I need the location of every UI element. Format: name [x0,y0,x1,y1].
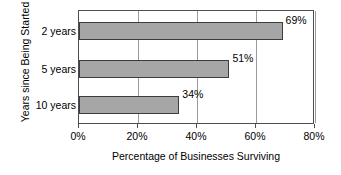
x-axis-tick-mark [137,124,138,128]
x-axis-tick-mark [314,124,315,128]
x-axis-tick-label: 0% [58,130,98,142]
bar-chart: Years since Being Started 2 years 5 year… [0,0,341,175]
bar-value-label: 51% [232,52,253,64]
bar-value-label: 69% [286,14,307,26]
x-axis-tick-label: 20% [117,130,157,142]
x-axis-title: Percentage of Businesses Surviving [78,150,314,163]
y-axis-tick-label: 10 years [16,99,76,111]
bar-10-years [79,96,179,114]
x-axis-tick-mark [78,124,79,128]
x-axis-tick-label: 80% [294,130,334,142]
bar-5-years [79,60,229,78]
x-axis-tick-mark [255,124,256,128]
x-axis-tick-label: 60% [235,130,275,142]
y-axis-tick-label: 5 years [16,63,76,75]
bar-2-years [79,22,283,40]
bar-value-label: 34% [182,88,203,100]
x-axis-tick-label: 40% [176,130,216,142]
x-axis-tick-mark [196,124,197,128]
y-axis-tick-label: 2 years [16,25,76,37]
plot-area [78,10,314,124]
gridline-80 [315,11,316,123]
